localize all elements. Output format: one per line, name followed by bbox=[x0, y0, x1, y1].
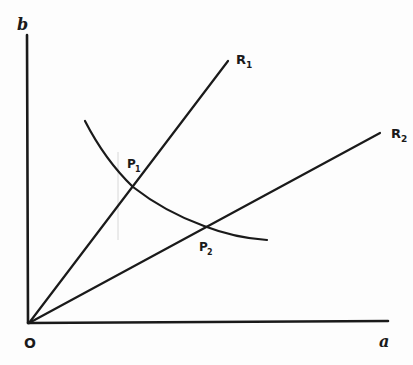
ray-r2-subscript: 2 bbox=[401, 134, 407, 144]
diagram-canvas: b a O R 1 R 2 P 1 P 2 bbox=[0, 0, 413, 365]
ray-r2-label: R 2 bbox=[391, 126, 407, 144]
indifference-curve bbox=[85, 121, 267, 240]
origin-label: O bbox=[24, 335, 36, 351]
ray-r2-letter: R bbox=[391, 126, 401, 141]
x-axis bbox=[28, 321, 388, 323]
x-axis-label: a bbox=[379, 332, 389, 351]
ray-r1-subscript: 1 bbox=[246, 60, 252, 70]
point-p1-subscript: 1 bbox=[135, 165, 141, 174]
ray-r1-letter: R bbox=[236, 52, 246, 67]
point-p2-label: P 2 bbox=[199, 240, 213, 257]
point-p2-subscript: 2 bbox=[207, 248, 213, 257]
ray-r2 bbox=[29, 133, 380, 323]
ray-r1-label: R 1 bbox=[236, 52, 252, 70]
y-axis bbox=[27, 35, 28, 323]
y-axis-label: b bbox=[17, 15, 28, 34]
ray-r1 bbox=[29, 61, 228, 323]
point-p1-label: P 1 bbox=[127, 157, 141, 174]
